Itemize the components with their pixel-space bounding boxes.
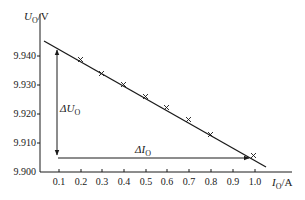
x-tick-label: 0.6 xyxy=(161,176,174,187)
data-point-marker xyxy=(99,71,104,76)
y-tick-label: 9.930 xyxy=(14,79,37,90)
delta-u-label: ΔUO xyxy=(59,102,80,117)
x-tick-label: 1.0 xyxy=(249,176,262,187)
data-markers xyxy=(78,57,256,158)
x-tick-label: 0.7 xyxy=(183,176,196,187)
data-point-marker xyxy=(251,153,256,158)
data-point-marker xyxy=(164,105,169,110)
x-tick-label: 0.9 xyxy=(227,176,240,187)
y-tick-label: 9.920 xyxy=(14,108,37,119)
x-tick-label: 0.2 xyxy=(75,176,88,187)
x-tick-label: 0.1 xyxy=(53,176,66,187)
delta-i-label: ΔIO xyxy=(134,143,151,158)
chart-figure: UO/V IO/A 9.940 9.930 9.920 9.910 9.900 … xyxy=(0,0,305,200)
y-tick-label: 9.900 xyxy=(14,166,37,177)
x-axis-title: IO/A xyxy=(271,176,293,191)
y-ticks: 9.940 9.930 9.920 9.910 9.900 xyxy=(14,50,41,177)
x-tick-label: 0.5 xyxy=(140,176,153,187)
x-tick-label: 0.4 xyxy=(118,176,131,187)
data-point-marker xyxy=(186,117,191,122)
fit-line xyxy=(44,41,266,167)
x-tick-label: 0.3 xyxy=(96,176,109,187)
x-tick-label: 0.8 xyxy=(205,176,218,187)
y-tick-label: 9.940 xyxy=(14,50,37,61)
y-tick-label: 9.910 xyxy=(14,137,37,148)
y-axis-title: UO/V xyxy=(24,10,49,25)
